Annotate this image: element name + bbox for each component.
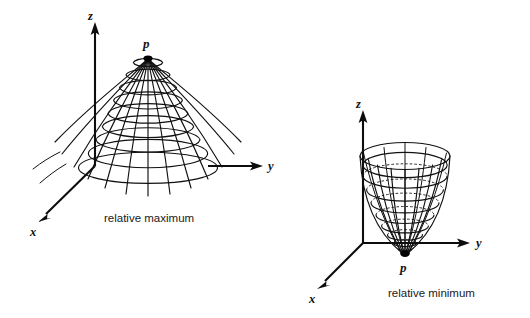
x-axis-right bbox=[317, 243, 363, 289]
y-axis-label-right: y bbox=[474, 236, 482, 250]
z-axis-left bbox=[91, 22, 100, 166]
panel-relative-minimum: z y x p relative minimum bbox=[308, 97, 482, 306]
dome-meridian-curves bbox=[55, 59, 241, 196]
x-axis-label-right: x bbox=[308, 292, 315, 306]
z-axis-label-left: z bbox=[87, 9, 93, 23]
cup-meridian-curves bbox=[364, 143, 447, 254]
y-axis-label-left: y bbox=[266, 159, 274, 173]
x-axis-arrowhead-right bbox=[317, 281, 330, 289]
calculus-extrema-figure: z y x p relative maximum bbox=[0, 0, 530, 318]
x-axis-left bbox=[38, 166, 95, 222]
critical-point-dot-maximum bbox=[143, 56, 152, 62]
critical-point-label-minimum: p bbox=[399, 260, 407, 275]
critical-point-dot-minimum bbox=[400, 250, 410, 257]
y-axis-left bbox=[208, 162, 263, 171]
figure-canvas: z y x p relative maximum bbox=[0, 0, 530, 318]
caption-relative-maximum: relative maximum bbox=[104, 212, 194, 224]
critical-point-label-maximum: p bbox=[142, 36, 150, 51]
caption-relative-minimum: relative minimum bbox=[388, 287, 475, 299]
dome-skirt-strokes bbox=[33, 152, 66, 183]
x-axis-arrowhead-left bbox=[38, 214, 51, 222]
z-axis-label-right: z bbox=[355, 97, 361, 111]
panel-relative-maximum: z y x p relative maximum bbox=[29, 9, 274, 239]
x-axis-label-left: x bbox=[29, 225, 36, 239]
